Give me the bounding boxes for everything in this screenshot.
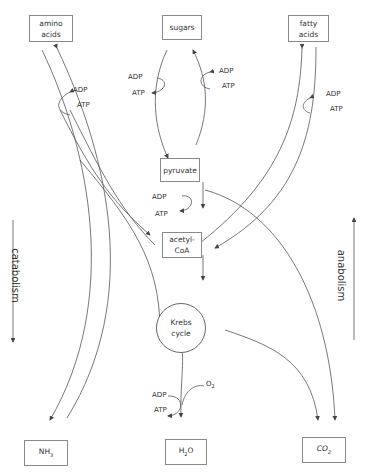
node-label: H2O bbox=[179, 445, 194, 460]
node-label: CoA bbox=[175, 246, 190, 255]
node-label: pyruvate bbox=[163, 165, 197, 176]
node-label: cycle bbox=[171, 329, 190, 338]
node-nh3: NH3 bbox=[24, 440, 68, 466]
node-label: acetyl- bbox=[169, 235, 195, 244]
adp-label: ADP bbox=[128, 73, 142, 81]
node-label: sugars bbox=[169, 22, 194, 33]
node-sugars: sugars bbox=[162, 15, 202, 40]
atp-label: ATP bbox=[330, 105, 343, 113]
node-fatty-acids: fattyacids bbox=[288, 15, 329, 42]
atp-label: ATP bbox=[222, 82, 235, 90]
adp-label: ADP bbox=[152, 391, 166, 399]
node-label: fatty bbox=[300, 19, 318, 28]
node-krebs-cycle: Krebscycle bbox=[156, 303, 206, 353]
anabolism-label: anabolism bbox=[336, 250, 347, 302]
node-label: NH3 bbox=[39, 446, 53, 461]
adp-label: ADP bbox=[73, 86, 87, 94]
node-label: CO2 bbox=[317, 443, 331, 458]
node-label: acids bbox=[41, 30, 60, 39]
catabolism-label: catabolism bbox=[10, 248, 21, 303]
node-label: acids bbox=[299, 30, 318, 39]
node-h2o: H2O bbox=[165, 439, 207, 465]
adp-label: ADP bbox=[219, 67, 233, 75]
oxygen-label: O2 bbox=[206, 380, 215, 389]
atp-label: ATP bbox=[154, 406, 167, 414]
atp-label: ATP bbox=[132, 89, 145, 97]
node-amino-acids: aminoacids bbox=[29, 15, 73, 42]
atp-label: ATP bbox=[155, 210, 168, 218]
node-acetyl-coa: acetyl-CoA bbox=[162, 232, 202, 258]
node-label: Krebs bbox=[170, 318, 191, 327]
adp-label: ADP bbox=[152, 193, 166, 201]
node-co2: CO2 bbox=[302, 437, 346, 463]
atp-label: ATP bbox=[77, 101, 90, 109]
node-label: amino bbox=[39, 19, 62, 28]
node-pyruvate: pyruvate bbox=[160, 158, 200, 182]
adp-label: ADP bbox=[326, 90, 340, 98]
